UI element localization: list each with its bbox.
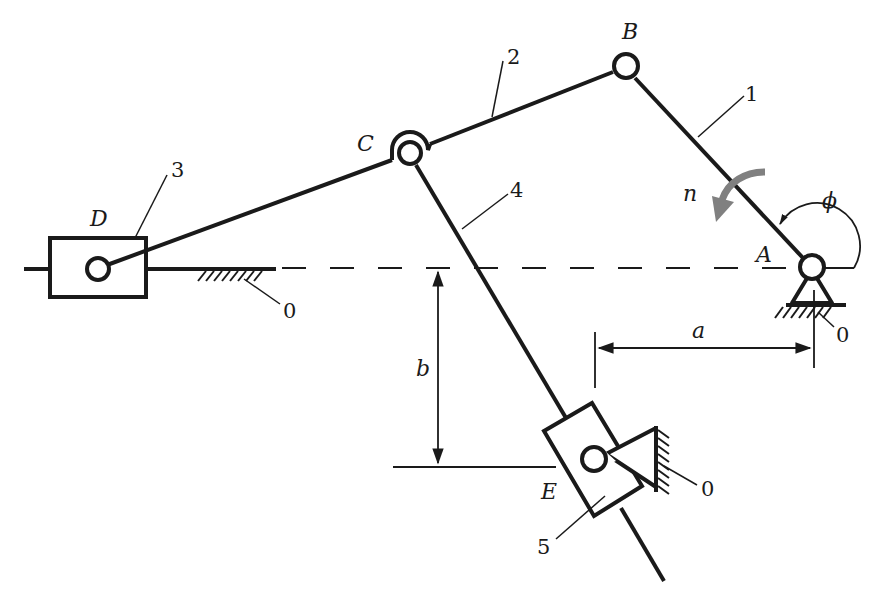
- rotation-arrow-n: n: [683, 172, 765, 222]
- ground-label-a: 0: [836, 323, 849, 347]
- mechanism-diagram: 0 0 ϕ: [0, 0, 879, 607]
- rotation-label-n: n: [683, 181, 697, 206]
- link-label-1: 1: [745, 82, 758, 106]
- ground-label-e: 0: [701, 477, 714, 501]
- joint-label-c: C: [357, 131, 374, 156]
- joint-c: [392, 132, 430, 164]
- dimension-b: b: [393, 272, 556, 467]
- joint-label-e: E: [540, 479, 557, 504]
- dimension-a: a: [595, 290, 814, 388]
- link-label-4: 4: [510, 178, 523, 202]
- link-1-crank: [635, 78, 803, 258]
- joint-label-d: D: [89, 206, 108, 231]
- ground-hatch-d: [198, 271, 262, 281]
- joint-b: [614, 54, 638, 78]
- angle-phi-label: ϕ: [822, 188, 837, 213]
- joint-label-b: B: [621, 19, 638, 44]
- joint-d: [87, 258, 109, 280]
- ground-hatch-e: [658, 430, 669, 494]
- joint-label-a: A: [754, 242, 772, 267]
- joint-labels: D C B A E: [89, 19, 772, 504]
- link-4-rod-lower: [621, 508, 664, 581]
- dimension-b-label: b: [416, 356, 430, 381]
- link-label-5: 5: [537, 535, 550, 559]
- link-2-bc: [430, 72, 613, 144]
- dimension-a-label: a: [692, 318, 705, 343]
- link-dc: [107, 160, 392, 265]
- ground-label-d: 0: [283, 299, 296, 323]
- link-label-2: 2: [507, 45, 520, 69]
- link-label-3: 3: [171, 158, 184, 182]
